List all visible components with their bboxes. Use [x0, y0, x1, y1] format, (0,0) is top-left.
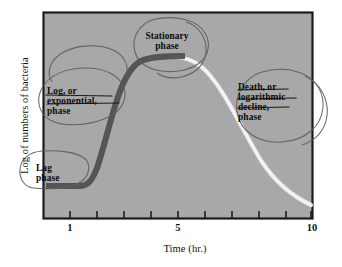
annotation-lag-phase: Lag phase: [36, 163, 82, 183]
y-axis-title: Log of numbers of bacteria: [19, 31, 30, 201]
x-tick-label-5: 5: [168, 222, 188, 233]
x-tick-label-10: 10: [301, 222, 323, 233]
annotation-log-phase: Log, or exponential, phase: [47, 86, 111, 116]
x-tick-label-1: 1: [60, 222, 80, 233]
x-axis-title: Time (hr.): [130, 243, 240, 254]
growth-curve-figure: 1 5 10 Time (hr.) Log of numbers of bact…: [0, 0, 342, 267]
annotation-stationary-phase: Stationary phase: [136, 31, 198, 51]
annotation-death-phase: Death, or logarithmic decline, phase: [238, 82, 304, 123]
